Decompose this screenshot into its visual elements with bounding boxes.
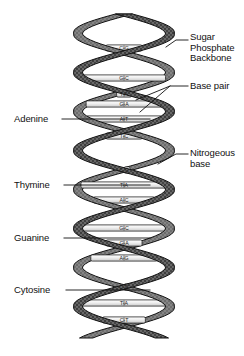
- base-pair-label: C-G: [119, 45, 129, 51]
- label-sugar-phosphate-backbone: Sugar Phosphate Backbone: [190, 32, 235, 64]
- base-pair-label: C-T: [120, 317, 129, 323]
- base-pair-label: T-A: [120, 91, 129, 97]
- label-guanine-text: Guanine: [14, 232, 49, 243]
- base-pair-label: C-G: [119, 167, 129, 173]
- base-pair-label: C-G: [119, 284, 129, 290]
- label-cytosine: Cytosine: [14, 285, 50, 296]
- label-thymine: Thymine: [14, 180, 50, 191]
- base-pair-label: G-A: [119, 101, 129, 107]
- base-pair-letter-labels: C-GG-CT-AG-AA-TT-CC-GT-AA-CG-CG-AA-GC-GT…: [119, 45, 129, 323]
- label-thymine-text: Thymine: [14, 179, 50, 190]
- label-guanine: Guanine: [14, 233, 49, 244]
- base-pair-label: A-C: [120, 197, 129, 203]
- dna-diagram: C-GG-CT-AG-AA-TT-CC-GT-AA-CG-CG-AA-GC-GT…: [0, 0, 244, 356]
- base-pair-label: T-C: [120, 133, 129, 139]
- label-base-pair: Base pair: [190, 81, 229, 92]
- label-nitrogeous-base: Nitrogeous base: [190, 148, 235, 169]
- label-adenine-text: Adenine: [14, 113, 48, 124]
- base-pair-label: G-A: [119, 240, 129, 246]
- base-pair-label: G-C: [119, 225, 129, 231]
- base-pair-label: A-G: [119, 255, 128, 261]
- label-adenine: Adenine: [14, 114, 48, 125]
- base-pair-label: G-C: [119, 75, 129, 81]
- label-cytosine-text: Cytosine: [14, 284, 50, 295]
- base-pair-label: T-A: [120, 300, 129, 306]
